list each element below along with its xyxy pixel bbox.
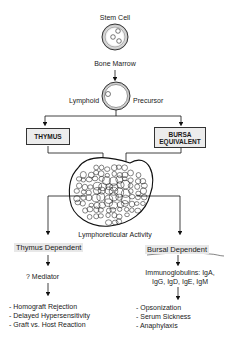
list-item: - Delayed Hypersensitivity	[9, 311, 90, 320]
list-item: - Homograft Rejection	[9, 302, 90, 311]
label-precursor: Precursor	[133, 97, 163, 105]
thymus-label: THYMUS	[34, 133, 61, 140]
lymphoreticular-organ-icon	[69, 158, 153, 227]
list-item: - Graft vs. Host Reaction	[9, 320, 90, 329]
diagram-canvas	[0, 0, 232, 342]
list-item: - Anaphylaxis	[136, 321, 191, 330]
list-item: - Serum Sickness	[136, 312, 191, 321]
thymus-dependent-heading: Thymus Dependent	[14, 243, 83, 252]
label-bone-marrow: Bone Marrow	[90, 60, 140, 68]
label-stem-cell: Stem Cell	[95, 14, 135, 22]
bursal-effects-list: - Opsonization - Serum Sickness - Anaphy…	[136, 303, 191, 330]
bursa-label-line2: EQUIVALENT	[159, 138, 200, 145]
label-lymphoid: Lymphoid	[69, 97, 99, 105]
immuno-line1: Immunoglobulins: IgA,	[138, 268, 222, 277]
label-mediator: ? Mediator	[26, 273, 59, 281]
immunoglobulins-label: Immunoglobulins: IgA, IgG, IgD, IgE, IgM	[138, 268, 222, 286]
thymus-effects-list: - Homograft Rejection - Delayed Hypersen…	[9, 302, 90, 329]
stem-cell-icon	[102, 24, 128, 50]
thymus-box: THYMUS	[26, 128, 70, 145]
label-lymphoreticular: Lymphoreticular Activity	[70, 231, 160, 239]
immuno-line2: IgG, IgD, IgE, IgM	[138, 277, 222, 286]
list-item: - Opsonization	[136, 303, 191, 312]
bursal-dependent-heading: Bursal Dependent	[145, 245, 209, 254]
connector-precursor-split	[45, 110, 181, 124]
bursa-box: BURSA EQUIVALENT	[154, 127, 206, 148]
lymphoid-precursor-icon	[102, 82, 130, 110]
bursa-label-line1: BURSA	[168, 131, 191, 138]
